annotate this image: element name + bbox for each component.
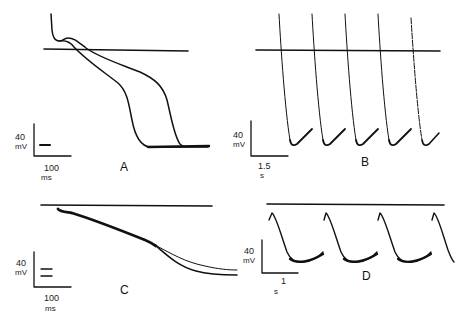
panel-b-zero-line [256,50,440,51]
panel-c-trace-upper [155,245,237,270]
panel-b-beat-1 [279,14,290,140]
panel-d-time-value: 1 [281,277,286,286]
panel-b-voltage-unit: mV [233,141,245,149]
panel-c-trace-shared [58,209,156,246]
panel-c-time-value: 100 [44,294,59,303]
panel-b-beat-2-tail [323,129,345,145]
panel-a-long-ap-trace [51,14,208,147]
panel-b [251,14,440,156]
panel-c-trace-lower [155,245,237,275]
panel-d-label: D [362,270,371,282]
panel-b-beat-4 [378,14,389,140]
panel-b-time-value: 1.5 [258,162,271,171]
panel-d-voltage-unit: mV [243,257,255,265]
panel-d-beat-3-thick [398,254,431,262]
figure-canvas [0,0,466,316]
panel-d-time-unit: s [274,288,278,296]
panel-d-beat-2-thick [344,254,377,262]
panel-b-beat-2 [312,14,323,140]
panel-c-label: C [120,284,129,296]
panel-c-voltage-unit: mV [15,269,27,277]
panel-d-voltage-value: 40 [244,247,254,256]
panel-a-zero-line [44,49,188,51]
panel-d [262,204,454,273]
panel-d-beat-2 [324,213,377,262]
panel-d-beat-3 [378,213,431,262]
panel-b-beat-5-tail [422,133,439,145]
panel-b-beat-1-tail [290,129,312,145]
panel-b-label: B [361,156,369,168]
panel-b-beat-3 [345,14,356,140]
panel-a-short-ap-trace [60,41,185,147]
panel-b-beat-5 [411,18,422,140]
panel-a-baseline-thick [148,146,209,147]
panel-b-voltage-value: 40 [233,131,243,140]
panel-b-time-unit: s [260,172,264,180]
panel-c [34,205,237,287]
panel-b-scale-bar [251,121,288,156]
panel-b-beats [279,14,439,145]
panel-a-time-unit: ms [41,174,52,182]
panel-c-zero-line [41,205,212,206]
panel-a [34,14,209,156]
panel-d-zero-line [267,204,444,205]
panel-d-beat-1 [269,213,323,262]
panel-d-beat-1-thick [290,254,323,262]
panel-a-voltage-value: 40 [15,133,25,142]
panel-b-beat-4-tail [389,129,411,145]
panel-c-voltage-value: 40 [16,259,26,268]
panel-a-time-value: 100 [44,164,59,173]
panel-a-scale-bar [34,124,71,156]
panel-d-beat-4 [432,213,454,262]
panel-d-beats [269,213,454,262]
panel-c-scale-bar [34,252,71,287]
panel-a-voltage-unit: mV [15,143,27,151]
panel-d-scale-bar [262,240,298,273]
panel-a-label: A [120,161,128,173]
panel-b-beat-3-tail [356,129,378,145]
panel-c-time-unit: ms [45,305,56,313]
